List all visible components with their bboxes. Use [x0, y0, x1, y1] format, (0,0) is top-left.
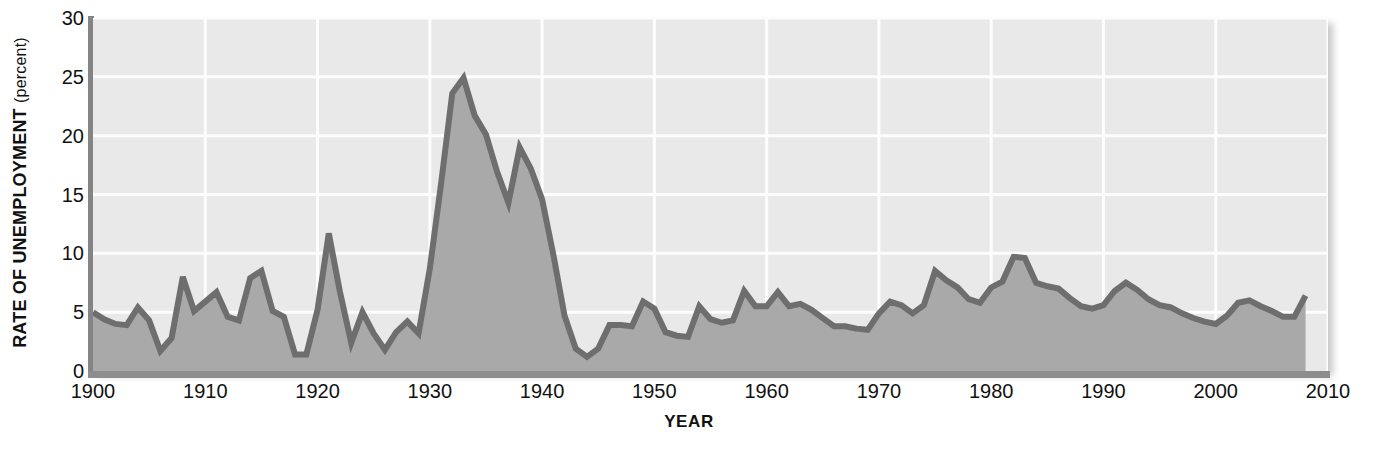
x-tick-label: 1910 — [183, 380, 228, 403]
y-axis-tick-labels: 051015202530 — [40, 0, 90, 385]
x-tick-label: 2010 — [1306, 380, 1351, 403]
x-tick-label: 1950 — [632, 380, 677, 403]
x-tick-label: 1900 — [71, 380, 116, 403]
y-tick-label: 15 — [62, 183, 84, 206]
unemployment-area-fill — [93, 78, 1306, 371]
plot-area — [93, 18, 1328, 371]
x-tick-label: 1980 — [969, 380, 1014, 403]
x-axis-line — [88, 371, 1330, 378]
x-axis-title: YEAR — [0, 412, 1378, 432]
x-tick-label: 1920 — [295, 380, 340, 403]
y-axis-title: RATE OF UNEMPLOYMENT (percent) — [0, 0, 40, 385]
x-tick-label: 1940 — [520, 380, 565, 403]
y-tick-label: 5 — [73, 301, 84, 324]
y-tick-label: 10 — [62, 242, 84, 265]
x-tick-label: 2000 — [1193, 380, 1238, 403]
x-axis-tick-labels: 1900191019201930194019501960197019801990… — [93, 380, 1328, 410]
x-tick-label: 1960 — [744, 380, 789, 403]
y-axis-title-unit: (percent) — [12, 37, 29, 103]
x-tick-label: 1990 — [1081, 380, 1126, 403]
y-tick-label: 25 — [62, 65, 84, 88]
y-tick-label: 20 — [62, 124, 84, 147]
y-tick-label: 30 — [62, 7, 84, 30]
x-tick-label: 1930 — [408, 380, 453, 403]
x-tick-label: 1970 — [857, 380, 902, 403]
y-axis-title-text: RATE OF UNEMPLOYMENT — [10, 108, 30, 348]
unemployment-rate-chart: RATE OF UNEMPLOYMENT (percent) 051015202… — [0, 0, 1378, 449]
area-chart-svg — [93, 18, 1328, 371]
